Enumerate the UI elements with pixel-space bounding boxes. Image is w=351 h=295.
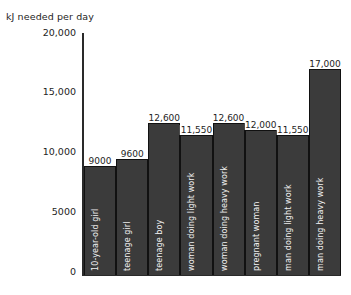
bar[interactable]: 11,550 woman doing light work bbox=[180, 135, 212, 275]
bar-slot: 12,600 teenage boy bbox=[148, 33, 180, 275]
bar-slot: 9600 teenage girl bbox=[116, 33, 148, 275]
bar-value-label: 9600 bbox=[120, 149, 144, 159]
bar-slot: 12,000 pregnant woman bbox=[245, 33, 277, 275]
bar-slot: 11,550 woman doing light work bbox=[180, 33, 212, 275]
bar-slot: 12,600 woman doing heavy work bbox=[213, 33, 245, 275]
bar-category-label: teenage boy bbox=[155, 245, 164, 295]
bar-value-label: 12,000 bbox=[244, 120, 277, 130]
y-tick-label-20000: 20,000 bbox=[6, 28, 76, 38]
bar-category-text: pregnant woman bbox=[252, 201, 261, 271]
bar[interactable]: 12,600 teenage boy bbox=[148, 123, 180, 275]
bar-series: 9000 10-year-old girl 9600 teenage girl … bbox=[84, 33, 341, 275]
bar-category-label: 10-year-old girl bbox=[91, 240, 100, 295]
bar-value-label: 17,000 bbox=[309, 59, 342, 69]
bar-category-text: man doing heavy work bbox=[316, 178, 325, 271]
bar-value-label: 11,550 bbox=[277, 125, 310, 135]
bar-value-label: 12,600 bbox=[212, 113, 245, 123]
bar-category-label: woman doing light work bbox=[187, 222, 196, 295]
bar[interactable]: 9600 teenage girl bbox=[116, 159, 148, 275]
bar[interactable]: 17,000 man doing heavy work bbox=[309, 69, 341, 275]
bar-category-text: teenage boy bbox=[155, 220, 164, 271]
bar-category-label: teenage girl bbox=[123, 246, 132, 295]
bar-slot: 11,550 man doing light work bbox=[277, 33, 309, 275]
bar-category-label: woman doing heavy work bbox=[220, 218, 229, 295]
bar-category-text: man doing light work bbox=[284, 184, 293, 271]
bar-slot: 9000 10-year-old girl bbox=[84, 33, 116, 275]
y-tick-label-15000: 15,000 bbox=[6, 87, 76, 97]
bar[interactable]: 11,550 man doing light work bbox=[277, 135, 309, 275]
bar[interactable]: 12,600 woman doing heavy work bbox=[213, 123, 245, 275]
bar-category-label: man doing light work bbox=[284, 228, 293, 295]
y-tick-label-5000: 5000 bbox=[6, 207, 76, 217]
bar-category-text: 10-year-old girl bbox=[91, 209, 100, 271]
y-tick-label-0: 0 bbox=[6, 267, 76, 277]
bar-value-label: 11,550 bbox=[180, 125, 213, 135]
bar-value-label: 9000 bbox=[88, 156, 112, 166]
y-axis-title: kJ needed per day bbox=[6, 11, 94, 22]
plot-area: 9000 10-year-old girl 9600 teenage girl … bbox=[82, 33, 341, 275]
bar-category-text: woman doing heavy work bbox=[220, 166, 229, 271]
bar-chart: kJ needed per day 20,000 15,000 10,000 5… bbox=[0, 0, 351, 295]
bar-category-label: man doing heavy work bbox=[316, 224, 325, 295]
x-axis-baseline bbox=[82, 275, 341, 276]
bar-slot: 17,000 man doing heavy work bbox=[309, 33, 341, 275]
bar-category-text: teenage girl bbox=[123, 221, 132, 271]
bar[interactable]: 12,000 pregnant woman bbox=[245, 130, 277, 275]
bar-category-text: woman doing light work bbox=[187, 173, 196, 271]
bar-value-label: 12,600 bbox=[148, 113, 181, 123]
y-tick-label-10000: 10,000 bbox=[6, 147, 76, 157]
bar[interactable]: 9000 10-year-old girl bbox=[84, 166, 116, 275]
bar-category-label: pregnant woman bbox=[252, 236, 261, 295]
